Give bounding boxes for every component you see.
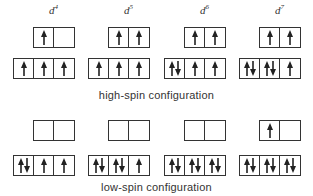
orbital — [280, 121, 300, 140]
orbital — [34, 59, 54, 78]
spin-up-arrow-icon — [267, 30, 273, 45]
orbital — [260, 121, 280, 140]
orbital — [89, 156, 109, 175]
orbital — [54, 59, 74, 78]
spin-down-arrow-icon — [99, 158, 105, 173]
orbital — [54, 28, 74, 47]
orbital — [205, 121, 225, 140]
spin-down-arrow-icon — [175, 158, 181, 173]
orbital — [165, 59, 185, 78]
spin-down-arrow-icon — [250, 61, 256, 76]
orbital — [280, 28, 300, 47]
spin-down-arrow-icon — [270, 158, 276, 173]
high-spin-eg-box — [184, 27, 226, 48]
low-spin-eg-box — [33, 120, 75, 141]
orbital — [129, 156, 149, 175]
spin-up-arrow-icon — [116, 30, 122, 45]
electron-count-label: d7 — [275, 3, 284, 16]
electron-count-label: d4 — [49, 3, 58, 16]
high-spin-caption: high-spin configuration — [0, 89, 313, 101]
orbital — [280, 59, 300, 78]
spin-down-arrow-icon — [195, 158, 201, 173]
orbital — [109, 121, 129, 140]
spin-down-arrow-icon — [290, 158, 296, 173]
spin-up-arrow-icon — [136, 30, 142, 45]
spin-up-arrow-icon — [61, 61, 67, 76]
spin-up-arrow-icon — [41, 30, 47, 45]
low-spin-caption: low-spin configuration — [0, 181, 313, 193]
spin-up-arrow-icon — [61, 158, 67, 173]
electron-count-label: d6 — [200, 3, 209, 16]
spin-up-arrow-icon — [116, 61, 122, 76]
orbital — [165, 156, 185, 175]
orbital — [240, 59, 260, 78]
orbital — [54, 121, 74, 140]
spin-up-arrow-icon — [192, 61, 198, 76]
low-spin-t2g-box — [13, 155, 75, 176]
orbital — [185, 59, 205, 78]
low-spin-eg-box — [184, 120, 226, 141]
orbital — [109, 59, 129, 78]
orbital — [14, 156, 34, 175]
high-spin-eg-box — [33, 27, 75, 48]
spin-up-arrow-icon — [287, 61, 293, 76]
low-spin-t2g-box — [239, 155, 301, 176]
orbital — [89, 59, 109, 78]
spin-up-arrow-icon — [212, 30, 218, 45]
electron-count-label: d5 — [124, 3, 133, 16]
low-spin-t2g-box — [164, 155, 226, 176]
orbital — [54, 156, 74, 175]
spin-down-arrow-icon — [119, 158, 125, 173]
orbital — [240, 156, 260, 175]
spin-up-arrow-icon — [287, 30, 293, 45]
spin-down-arrow-icon — [250, 158, 256, 173]
spin-up-arrow-icon — [267, 123, 273, 138]
orbital — [185, 156, 205, 175]
orbital — [260, 28, 280, 47]
high-spin-eg-box — [108, 27, 150, 48]
low-spin-t2g-box — [88, 155, 150, 176]
low-spin-eg-box — [108, 120, 150, 141]
orbital — [205, 59, 225, 78]
orbital — [260, 59, 280, 78]
spin-up-arrow-icon — [41, 158, 47, 173]
spin-up-arrow-icon — [21, 61, 27, 76]
orbital — [260, 156, 280, 175]
spin-up-arrow-icon — [136, 61, 142, 76]
spin-up-arrow-icon — [192, 30, 198, 45]
orbital — [34, 28, 54, 47]
spin-up-arrow-icon — [96, 61, 102, 76]
orbital — [34, 156, 54, 175]
orbital — [280, 156, 300, 175]
spin-down-arrow-icon — [175, 61, 181, 76]
orbital — [185, 121, 205, 140]
orbital — [34, 121, 54, 140]
spin-up-arrow-icon — [41, 61, 47, 76]
orbital — [109, 156, 129, 175]
spin-up-arrow-icon — [212, 61, 218, 76]
high-spin-eg-box — [259, 27, 301, 48]
orbital — [109, 28, 129, 47]
high-spin-t2g-box — [88, 58, 150, 79]
orbital — [205, 156, 225, 175]
orbital — [185, 28, 205, 47]
spin-up-arrow-icon — [136, 158, 142, 173]
orbital — [14, 59, 34, 78]
orbital — [205, 28, 225, 47]
orbital — [129, 121, 149, 140]
orbital — [129, 59, 149, 78]
low-spin-eg-box — [259, 120, 301, 141]
spin-down-arrow-icon — [24, 158, 30, 173]
spin-down-arrow-icon — [270, 61, 276, 76]
high-spin-t2g-box — [164, 58, 226, 79]
spin-down-arrow-icon — [215, 158, 221, 173]
high-spin-t2g-box — [239, 58, 301, 79]
orbital — [129, 28, 149, 47]
high-spin-t2g-box — [13, 58, 75, 79]
